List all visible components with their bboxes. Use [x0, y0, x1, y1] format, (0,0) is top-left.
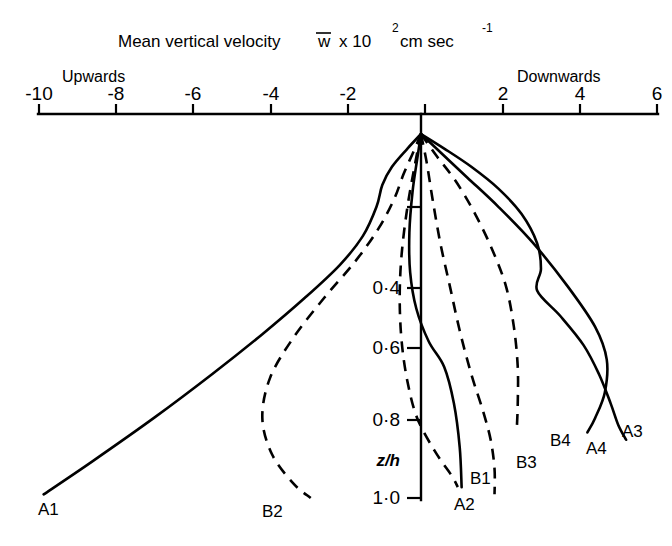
title-exponent-minus-1: -1: [482, 21, 493, 35]
curve-label-B4: B4: [550, 431, 571, 450]
x-tick-label--4: -4: [263, 83, 280, 104]
y-tick-label-0.4: 0·4: [373, 277, 401, 298]
curve-A4: [421, 134, 607, 432]
curve-label-B3: B3: [516, 453, 537, 472]
title-multiplier: x 10: [339, 32, 371, 51]
curve-B3: [421, 134, 518, 425]
x-tick-label--8: -8: [108, 83, 125, 104]
figure-root: Mean vertical velocity w x 10 2 cm sec -…: [0, 0, 672, 546]
direction-label-downwards: Downwards: [517, 68, 601, 85]
curve-label-A1: A1: [38, 500, 59, 519]
curve-label-A2: A2: [454, 495, 475, 514]
x-axis-tick-labels: -10 -8 -6 -4 -2 2 4 6: [25, 83, 662, 104]
curve-label-A4: A4: [586, 439, 607, 458]
title-prefix: Mean vertical velocity: [118, 32, 281, 51]
x-tick-label--6: -6: [185, 83, 202, 104]
curve-label-B2: B2: [262, 502, 283, 521]
x-axis: -10 -8 -6 -4 -2 2 4 6: [25, 83, 662, 114]
y-tick-label-0.8: 0·8: [373, 409, 400, 430]
curve-group: [44, 134, 626, 498]
curve-label-B1: B1: [470, 469, 491, 488]
title-unit: cm sec: [400, 32, 454, 51]
curve-A1: [44, 134, 421, 494]
curve-B2: [262, 134, 421, 498]
y-axis-title: z/h: [375, 451, 400, 470]
y-axis-tick-labels: 0·4 0·6 0·8 1·0: [373, 277, 401, 508]
curve-label-A3: A3: [622, 422, 643, 441]
title-exponent-2: 2: [392, 21, 399, 35]
x-tick-label-6: 6: [652, 83, 663, 104]
x-tick-label-4: 4: [575, 83, 586, 104]
title-symbol-w: w: [317, 32, 331, 51]
x-tick-label-2: 2: [498, 83, 509, 104]
chart-title: Mean vertical velocity w x 10 2 cm sec -…: [118, 21, 493, 51]
x-axis-ticks: [39, 104, 657, 114]
x-tick-label--2: -2: [340, 83, 357, 104]
y-tick-label-0.6: 0·6: [373, 337, 400, 358]
x-tick-label--10: -10: [25, 83, 52, 104]
curve-A2: [409, 134, 461, 487]
vertical-velocity-profile-chart: Mean vertical velocity w x 10 2 cm sec -…: [0, 0, 672, 546]
y-tick-label-1.0: 1·0: [373, 487, 400, 508]
curve-B1: [400, 134, 458, 487]
